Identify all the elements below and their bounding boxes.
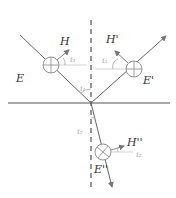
label-angle-i2-normal: i₂ bbox=[77, 127, 83, 136]
h-arrow-reflected bbox=[115, 51, 128, 63]
label-angle-i2: i₂ bbox=[136, 150, 142, 159]
refracted-wave: H'' E'' i₂ i₂ bbox=[77, 103, 143, 187]
label-angle-i1-reflected: i₁ bbox=[102, 56, 108, 65]
label-h: H bbox=[59, 35, 70, 48]
diagram-canvas: E H i₁ i₁ H' E' i₁ H'' E'' i₂ i₂ bbox=[0, 0, 176, 198]
label-h-prime: H' bbox=[105, 33, 119, 46]
label-e-prime: E' bbox=[142, 74, 154, 87]
label-angle-i1: i₁ bbox=[70, 55, 76, 64]
label-e-double-prime: E'' bbox=[93, 163, 108, 176]
label-angle-i1-normal: i₁ bbox=[80, 84, 86, 93]
label-e: E bbox=[15, 72, 24, 85]
incident-wave: E H i₁ i₁ bbox=[15, 35, 91, 103]
reflected-wave: H' E' i₁ bbox=[91, 33, 166, 103]
label-h-double-prime: H'' bbox=[126, 136, 143, 149]
